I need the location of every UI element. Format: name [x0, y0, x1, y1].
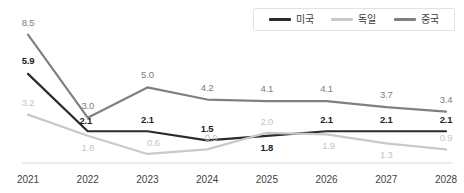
legend-swatch-icon: [394, 18, 416, 21]
legend-item-cn[interactable]: 중국: [394, 15, 439, 25]
value-label: 1.9: [322, 142, 335, 152]
legend[interactable]: 미국독일중국: [253, 8, 455, 31]
value-label: 1.8: [261, 143, 274, 153]
value-label: 8.5: [22, 18, 35, 28]
legend-item-label: 독일: [358, 15, 376, 25]
value-label: 0.9: [440, 134, 453, 144]
x-axis-tick-label: 2024: [196, 175, 218, 185]
x-axis-tick-label: 2025: [256, 175, 278, 185]
value-label: 5.0: [141, 71, 154, 81]
value-label: 1.3: [380, 151, 393, 161]
x-axis-tick-label: 2027: [375, 175, 397, 185]
value-label: 2.0: [261, 117, 274, 127]
value-label: 3.7: [380, 90, 393, 100]
value-label: 3.4: [440, 95, 453, 105]
legend-item-us[interactable]: 미국: [269, 15, 314, 25]
value-label: 2.1: [79, 117, 92, 127]
value-label: 1.8: [81, 143, 94, 153]
x-axis-tick-label: 2026: [315, 175, 337, 185]
value-label: 4.1: [261, 84, 274, 94]
value-label: 2.1: [320, 116, 333, 126]
legend-item-label: 미국: [296, 15, 314, 25]
value-label: 5.9: [22, 56, 35, 66]
x-axis-tick-label: 2028: [435, 175, 457, 185]
x-axis-tick-label: 2021: [17, 175, 39, 185]
value-label: 2.1: [141, 116, 154, 126]
legend-swatch-icon: [269, 18, 291, 21]
legend-item-de[interactable]: 독일: [331, 15, 376, 25]
value-label: 4.1: [320, 84, 333, 94]
x-axis-tick-label: 2022: [77, 175, 99, 185]
value-label: 2.1: [440, 116, 453, 126]
value-label: 0.6: [147, 138, 160, 148]
value-label: 0.9: [205, 134, 218, 144]
value-label: 4.2: [201, 83, 214, 93]
value-label: 2.1: [380, 116, 393, 126]
legend-swatch-icon: [331, 18, 353, 21]
x-axis-tick-label: 2023: [136, 175, 158, 185]
value-label: 3.0: [81, 101, 94, 111]
value-label: 3.2: [22, 98, 35, 108]
line-chart: 5.92.12.11.51.82.12.12.13.21.80.60.92.01…: [0, 0, 464, 193]
legend-item-label: 중국: [421, 15, 439, 25]
